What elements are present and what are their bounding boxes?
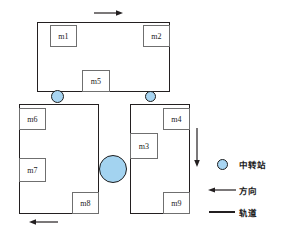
- machine-m1[interactable]: m1: [50, 25, 77, 47]
- legend-direction-swatch: [205, 186, 239, 194]
- legend-track-swatch: [205, 211, 239, 213]
- legend-label-direction: 方向: [239, 184, 257, 196]
- direction-arrow-icon: [208, 186, 236, 194]
- machine-m6-label: m6: [27, 115, 38, 124]
- legend-item-transfer-station: 中转站: [205, 158, 266, 170]
- machine-m4[interactable]: m4: [163, 108, 190, 130]
- machine-m5-label: m5: [91, 77, 102, 86]
- transfer-station-middle-icon[interactable]: [99, 155, 127, 183]
- machine-m5[interactable]: m5: [82, 70, 110, 92]
- machine-m9[interactable]: m9: [163, 192, 190, 214]
- machine-m3-label: m3: [139, 142, 150, 151]
- transfer-station-icon: [217, 159, 228, 170]
- machine-m8-label: m8: [80, 199, 91, 208]
- track-line-icon: [209, 211, 235, 213]
- machine-m6[interactable]: m6: [19, 108, 46, 130]
- transfer-station-left-icon[interactable]: [51, 90, 64, 103]
- machine-m8[interactable]: m8: [72, 192, 99, 214]
- legend-item-track: 轨道: [205, 206, 257, 218]
- direction-arrow-bottom-icon: [28, 217, 58, 227]
- legend-station-swatch: [205, 159, 239, 170]
- legend: 中转站 方向 轨道: [205, 152, 297, 222]
- legend-label-transfer-station: 中转站: [239, 158, 266, 170]
- direction-arrow-top-icon: [94, 8, 124, 18]
- diagram-canvas: m1 m2 m5 m6 m7 m8 m3 m4 m9 中转站: [0, 0, 299, 239]
- machine-m3[interactable]: m3: [130, 133, 158, 159]
- direction-arrow-right-icon: [192, 128, 202, 168]
- machine-m7[interactable]: m7: [19, 158, 46, 182]
- machine-m4-label: m4: [171, 115, 182, 124]
- machine-m9-label: m9: [171, 199, 182, 208]
- machine-m7-label: m7: [27, 166, 38, 175]
- machine-m2[interactable]: m2: [143, 25, 170, 47]
- machine-m1-label: m1: [58, 32, 69, 41]
- machine-m2-label: m2: [151, 32, 162, 41]
- legend-label-track: 轨道: [239, 206, 257, 218]
- legend-item-direction: 方向: [205, 184, 257, 196]
- transfer-station-right-icon[interactable]: [145, 91, 156, 102]
